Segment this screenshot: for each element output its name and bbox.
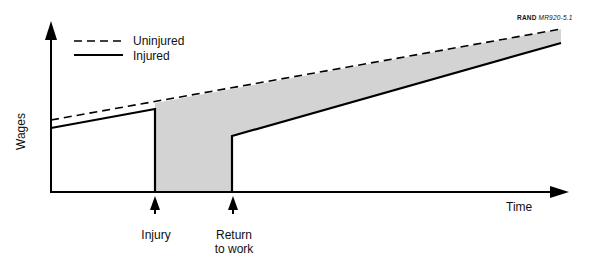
legend-injured-label: Injured [133, 49, 170, 63]
injured-wage-line [51, 109, 155, 192]
y-axis-label: Wages [14, 113, 28, 150]
return-to-work-label: Return to work [205, 228, 263, 256]
return-arrow-icon [228, 196, 238, 210]
wage-loss-diagram: RAND MR920-5.1 Uninjured Injured Wages T… [0, 0, 601, 267]
credit-org: RAND [517, 14, 537, 21]
x-axis-label: Time [506, 200, 532, 214]
x-axis-arrow-icon [550, 186, 569, 198]
return-label-line1: Return [205, 228, 263, 242]
legend-uninjured-label: Uninjured [133, 34, 184, 48]
y-axis-arrow-icon [45, 21, 57, 40]
wage-loss-area [155, 29, 561, 192]
injury-label: Injury [136, 228, 176, 242]
figure-credit: RAND MR920-5.1 [517, 14, 573, 21]
diagram-canvas [0, 0, 601, 267]
injury-arrow-icon [150, 196, 160, 210]
credit-id: MR920-5.1 [539, 14, 573, 21]
return-label-line2: to work [205, 242, 263, 256]
